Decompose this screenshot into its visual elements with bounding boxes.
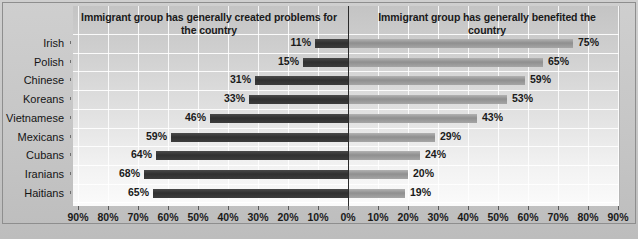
x-axis-tick <box>258 206 259 210</box>
x-axis-tick <box>498 206 499 210</box>
x-axis-tick <box>558 206 559 210</box>
category-tick <box>70 116 71 119</box>
category-tick <box>70 60 71 63</box>
category-label: Polish <box>0 55 64 69</box>
x-axis-tick-label: 90% <box>598 211 638 224</box>
x-axis-tick <box>588 206 589 210</box>
category-tick <box>70 97 71 100</box>
x-axis-tick <box>438 206 439 210</box>
x-axis-tick <box>198 206 199 210</box>
x-axis-tick <box>78 206 79 210</box>
category-tick <box>70 78 71 81</box>
x-axis-tick <box>138 206 139 210</box>
x-axis-tick <box>288 206 289 210</box>
x-axis-tick <box>468 206 469 210</box>
category-label: Haitians <box>0 186 64 200</box>
category-label: Vietnamese <box>0 111 64 125</box>
chart-canvas: 11%75%15%65%31%59%33%53%46%43%59%29%64%2… <box>0 0 638 239</box>
x-axis-tick <box>378 206 379 210</box>
category-tick <box>70 153 71 156</box>
x-axis-tick <box>618 206 619 210</box>
category-label: Mexicans <box>0 130 64 144</box>
category-label: Irish <box>0 36 64 50</box>
x-axis-tick <box>228 206 229 210</box>
x-axis-tick <box>108 206 109 210</box>
category-axis-labels: IrishPolishChineseKoreansVietnameseMexic… <box>0 6 638 206</box>
category-label: Koreans <box>0 92 64 106</box>
x-axis-tick <box>348 206 349 210</box>
x-axis-tick <box>528 206 529 210</box>
category-tick <box>70 191 71 194</box>
x-axis-tick <box>408 206 409 210</box>
category-tick <box>70 41 71 44</box>
category-label: Chinese <box>0 73 64 87</box>
category-label: Iranians <box>0 167 64 181</box>
x-axis-tick <box>168 206 169 210</box>
category-label: Cubans <box>0 148 64 162</box>
category-tick <box>70 135 71 138</box>
x-axis-tick <box>318 206 319 210</box>
x-axis: 90%80%70%60%50%40%30%20%10%0%10%20%30%40… <box>0 206 638 228</box>
category-tick <box>70 172 71 175</box>
